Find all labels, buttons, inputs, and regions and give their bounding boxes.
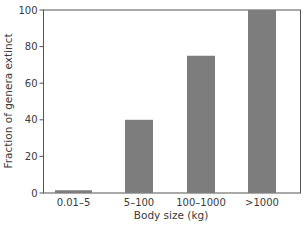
y-axis: 020406080100 [18,5,43,199]
bar-1 [55,190,92,193]
x-tick-label: 0.01–5 [57,197,91,208]
bar-3 [187,56,215,193]
y-tick-label: 0 [31,188,37,199]
bar-2 [125,120,153,193]
y-tick-label: 100 [18,5,37,16]
x-axis-title: Body size (kg) [134,209,208,221]
y-tick-label: 40 [25,114,38,125]
bars [55,10,276,193]
bar-4 [248,10,276,193]
x-tick-label: 100–1000 [176,197,226,208]
y-tick-label: 20 [25,151,38,162]
x-tick-label: >1000 [245,197,279,208]
y-tick-label: 60 [25,78,38,89]
bar-chart: 020406080100 0.01–55–100100–1000>1000 Fr… [0,0,305,227]
y-axis-title: Fraction of genera extinct [2,33,14,168]
y-tick-label: 80 [25,41,38,52]
x-axis: 0.01–55–100100–1000>1000 [57,197,279,208]
x-tick-label: 5–100 [124,197,154,208]
